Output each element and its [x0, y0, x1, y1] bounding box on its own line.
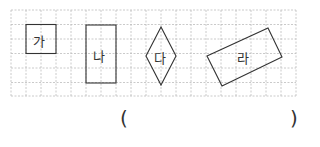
answer-blank[interactable] [132, 110, 288, 130]
shape-label-da: 다 [154, 48, 166, 67]
answer-paren-open: ( [120, 108, 128, 128]
shape-label-ra: 라 [237, 48, 249, 67]
answer-paren-close: ) [290, 108, 298, 128]
shape-label-na: 나 [93, 46, 105, 65]
shape-label-ga: 가 [33, 31, 45, 50]
